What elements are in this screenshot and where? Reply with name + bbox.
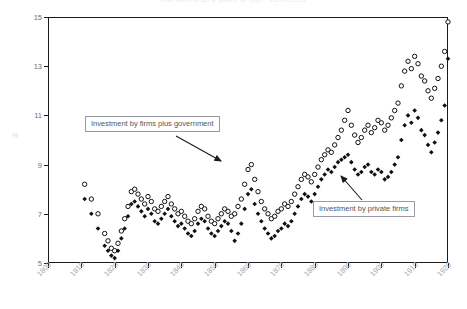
data-point	[132, 199, 137, 204]
data-point	[306, 194, 311, 199]
data-point	[356, 172, 361, 177]
data-point	[112, 256, 117, 261]
data-point	[436, 76, 440, 80]
data-point	[322, 153, 326, 157]
data-point	[309, 180, 313, 184]
data-point	[392, 108, 396, 112]
data-point	[89, 197, 93, 201]
data-point	[376, 167, 381, 172]
data-point	[406, 59, 410, 63]
data-point	[389, 170, 394, 175]
data-point	[169, 214, 174, 219]
data-point	[366, 162, 371, 167]
data-point	[446, 20, 450, 24]
data-point	[326, 167, 331, 172]
data-point	[349, 123, 353, 127]
data-point	[336, 160, 341, 165]
data-point	[226, 209, 230, 213]
data-point	[259, 199, 263, 203]
data-point	[119, 229, 123, 233]
data-point	[342, 118, 346, 122]
data-point	[382, 128, 386, 132]
data-point	[272, 234, 277, 239]
data-point	[146, 207, 151, 212]
data-point	[419, 128, 424, 133]
data-point	[266, 231, 271, 236]
series-private-firms	[82, 57, 450, 261]
data-point	[246, 192, 251, 197]
data-point	[379, 170, 384, 175]
data-point	[256, 189, 260, 193]
data-point	[266, 212, 270, 216]
data-point	[296, 204, 301, 209]
data-point	[246, 167, 250, 171]
data-point	[242, 182, 246, 186]
data-point	[332, 165, 337, 170]
chart-canvas: Investment as a share of GDP, 1800-1920 …	[0, 0, 467, 309]
data-point	[242, 207, 247, 212]
data-point	[166, 207, 171, 212]
data-point	[322, 172, 327, 177]
data-point	[159, 204, 163, 208]
data-point	[369, 170, 374, 175]
data-point	[139, 197, 143, 201]
data-point	[319, 177, 324, 182]
data-point	[236, 204, 240, 208]
data-point	[319, 157, 323, 161]
data-point	[189, 221, 193, 225]
data-point	[349, 160, 354, 165]
data-point	[272, 214, 276, 218]
data-point	[159, 216, 164, 221]
data-point	[256, 212, 261, 217]
data-point	[306, 175, 310, 179]
data-point	[416, 116, 421, 121]
data-point	[259, 219, 264, 224]
data-point	[412, 54, 416, 58]
data-point	[149, 212, 154, 217]
data-point	[249, 187, 254, 192]
data-point	[372, 172, 377, 177]
data-point	[192, 217, 196, 221]
data-point	[189, 234, 194, 239]
data-point	[352, 133, 356, 137]
data-point	[279, 226, 284, 231]
data-point	[182, 214, 186, 218]
data-point	[396, 155, 401, 160]
data-point	[352, 167, 357, 172]
data-point	[406, 113, 411, 118]
data-point	[156, 221, 161, 226]
data-point	[439, 64, 443, 68]
data-point	[102, 231, 106, 235]
data-point	[316, 184, 321, 189]
data-point	[292, 212, 297, 217]
data-point	[162, 212, 167, 217]
data-point	[346, 108, 350, 112]
data-point	[366, 123, 370, 127]
data-point	[82, 182, 86, 186]
data-point	[116, 241, 120, 245]
data-point	[399, 138, 404, 143]
data-point	[359, 170, 364, 175]
data-point	[422, 79, 426, 83]
data-point	[172, 219, 177, 224]
data-point	[286, 204, 290, 208]
data-point	[136, 204, 141, 209]
data-point	[122, 217, 126, 221]
data-point	[166, 194, 170, 198]
data-point	[292, 192, 296, 196]
data-point	[426, 89, 430, 93]
data-point	[172, 207, 176, 211]
data-point	[139, 209, 144, 214]
data-point	[142, 214, 147, 219]
data-point	[202, 207, 206, 211]
data-point	[232, 239, 237, 244]
data-point	[126, 204, 130, 208]
data-point	[102, 243, 107, 248]
data-point	[212, 234, 217, 239]
data-point	[429, 96, 433, 100]
data-point	[392, 162, 397, 167]
data-point	[389, 116, 393, 120]
data-point	[379, 121, 383, 125]
annotation-label-firms-plus-government: Investment by firms plus government	[85, 116, 220, 132]
data-point	[299, 197, 304, 202]
